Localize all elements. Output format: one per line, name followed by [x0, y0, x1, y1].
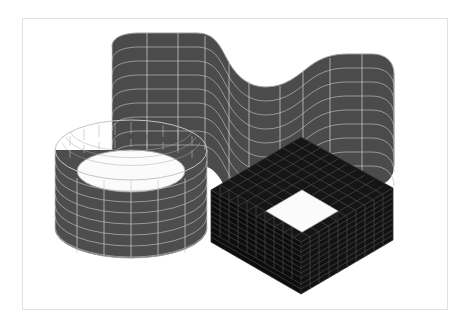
3d-scene-canvas: [0, 0, 471, 328]
screenshot-root: [0, 0, 471, 328]
